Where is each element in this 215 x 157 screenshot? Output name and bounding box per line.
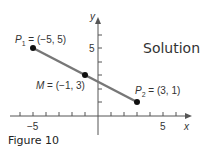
point-m — [82, 72, 88, 78]
y-axis-label: y — [89, 11, 96, 22]
label-p2: P2 = (3, 1) — [135, 85, 180, 98]
y-tick-label-5: 5 — [89, 43, 95, 54]
y-axis-arrow-icon — [95, 17, 101, 24]
x-axis-arrow-icon — [185, 113, 192, 119]
point-p1 — [30, 45, 36, 51]
label-m: M = (−1, 3) — [36, 80, 85, 91]
x-tick-label-5: 5 — [160, 121, 166, 132]
solution-heading: Solution — [143, 40, 200, 56]
x-axis-label: x — [183, 121, 190, 132]
label-p1: P1 = (−5, 5) — [15, 34, 66, 47]
x-tick-label-neg5: −5 — [27, 121, 39, 132]
figure-caption: Figure 10 — [8, 134, 59, 147]
y-ticks — [98, 35, 102, 102]
point-p2 — [134, 99, 140, 105]
